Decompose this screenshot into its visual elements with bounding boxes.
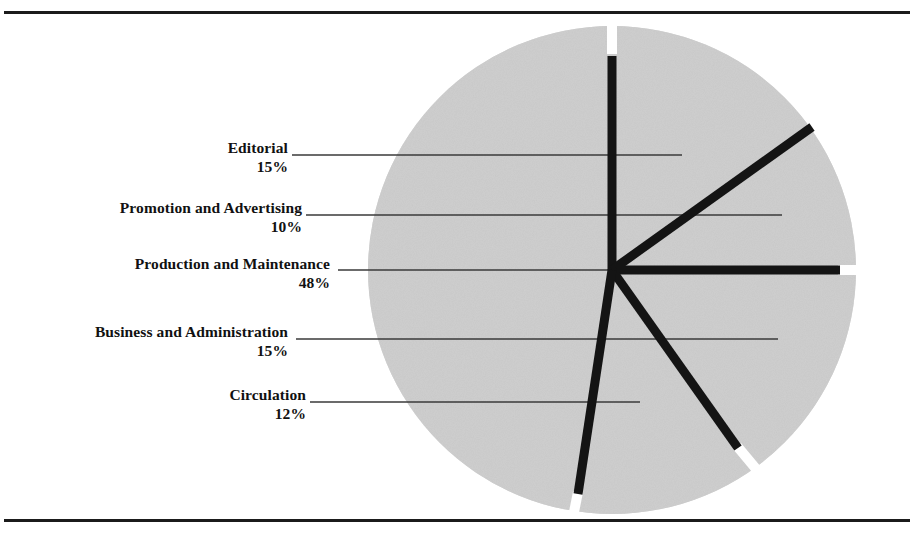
- callout-circulation-label: Circulation: [229, 386, 306, 403]
- callout-business-value: 15%: [8, 342, 288, 361]
- callout-business: Business and Administration 15%: [8, 323, 288, 361]
- callout-editorial: Editorial 15%: [20, 139, 288, 177]
- callout-promotion-label: Promotion and Advertising: [120, 199, 302, 216]
- bottom-horizontal-rule: [4, 519, 910, 522]
- callout-circulation: Circulation 12%: [20, 386, 306, 424]
- figure-page: Editorial 15% Promotion and Advertising …: [0, 0, 914, 538]
- callout-production-label: Production and Maintenance: [135, 255, 330, 272]
- callout-editorial-value: 15%: [20, 158, 288, 177]
- cutoff-caption-text: [0, 0, 914, 3]
- callout-circulation-value: 12%: [20, 405, 306, 424]
- pie-callout-labels: Editorial 15% Promotion and Advertising …: [0, 14, 914, 518]
- callout-promotion-value: 10%: [20, 218, 302, 237]
- callout-promotion: Promotion and Advertising 10%: [20, 199, 302, 237]
- callout-business-label: Business and Administration: [95, 323, 288, 340]
- callout-production-value: 48%: [16, 274, 330, 293]
- callout-editorial-label: Editorial: [228, 139, 288, 156]
- callout-production: Production and Maintenance 48%: [16, 255, 330, 293]
